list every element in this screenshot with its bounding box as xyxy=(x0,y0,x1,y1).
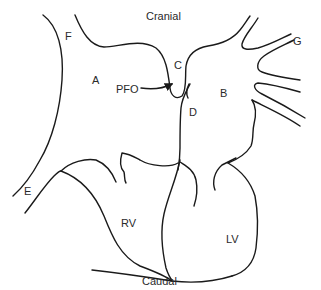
label-G: G xyxy=(293,36,302,47)
right-ventricle-outflow xyxy=(61,159,116,182)
label-B: B xyxy=(220,88,227,99)
mitral-valve-leaflet-right xyxy=(214,158,236,190)
atrial-roof-contour xyxy=(75,15,250,98)
heart-diagram: Cranial Caudal F A C B G PFO D E RV LV xyxy=(0,0,321,290)
pfo-arrow xyxy=(141,84,172,89)
label-E: E xyxy=(24,186,31,197)
cranial-label: Cranial xyxy=(146,11,181,22)
pulmonary-vein-prong-3 xyxy=(252,100,300,126)
label-A: A xyxy=(92,75,99,86)
label-D: D xyxy=(189,107,197,118)
label-RV: RV xyxy=(121,218,136,229)
ventricular-septum xyxy=(162,160,180,280)
label-PFO: PFO xyxy=(116,84,139,95)
left-vessel-contour xyxy=(13,15,62,196)
heart-outline-drawing xyxy=(0,0,321,290)
pulmonary-vein-prong-2 xyxy=(255,83,305,118)
tricuspid-valve-contour xyxy=(121,153,178,183)
left-ventricle-wall xyxy=(228,163,257,276)
label-LV: LV xyxy=(226,234,239,245)
label-F: F xyxy=(65,31,72,42)
atrial-septum-right xyxy=(187,84,189,98)
left-atrium-wall xyxy=(228,100,255,163)
label-C: C xyxy=(174,60,182,71)
right-ventricle-wall xyxy=(61,171,172,281)
caudal-label: Caudal xyxy=(142,276,177,287)
mitral-valve-leaflet-left xyxy=(180,162,197,206)
